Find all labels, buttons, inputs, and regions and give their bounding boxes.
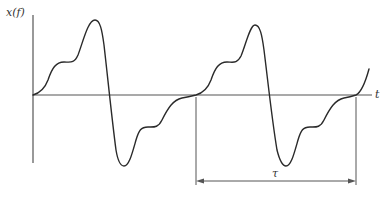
left-arrowhead-icon [196,179,204,184]
y-axis-label: x(f) [6,6,25,19]
waveform-diagram: x(f) t τ [0,0,388,197]
waveform-curve [33,20,369,166]
waveform-canvas: x(f) t τ [0,0,388,197]
right-arrowhead-icon [348,179,356,184]
x-axis-label: t [375,88,380,101]
period-label: τ [272,167,279,180]
